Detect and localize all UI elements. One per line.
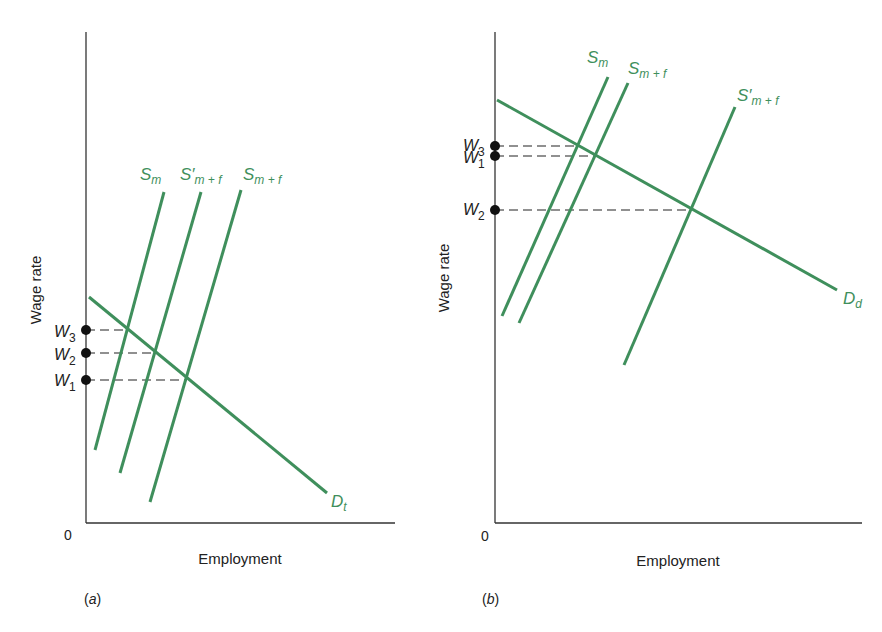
supply-curve-smf-b: [519, 83, 628, 323]
sm-label-a: Sm: [140, 165, 161, 187]
origin-label-b: 0: [481, 528, 489, 544]
dt-label-a: Dt: [331, 492, 347, 514]
y-axis-title-b: Wage rate: [435, 244, 452, 313]
w2-dot-a: [81, 348, 91, 358]
w2-label-a: W2: [54, 346, 76, 368]
w3-label-a: W3: [54, 323, 76, 345]
smf-prime-label-a: S′m + f: [180, 165, 223, 187]
w1-dot-b: [490, 151, 500, 161]
dd-label-b: Dd: [843, 289, 862, 311]
w3-dot-a: [81, 325, 91, 335]
supply-curve-sm-a: [95, 192, 164, 450]
w2-label-b: W2: [463, 201, 485, 223]
smf-label-b: Sm + f: [628, 59, 668, 81]
smf-label-a: Sm + f: [243, 165, 283, 187]
w2-dot-b: [490, 205, 500, 215]
w1-label-a: W1: [54, 372, 76, 394]
demand-curve-dt-a: [89, 297, 327, 493]
y-axis-title-a: Wage rate: [27, 256, 44, 325]
supply-curve-smf-prime-b: [624, 107, 735, 365]
panel-b: W3 W1 W2 Sm Sm + f S′m + f Dd Wage rate …: [435, 32, 862, 607]
figure: W3 W2 W1 Sm S′m + f Sm + f Dt Wage rate …: [0, 0, 882, 632]
x-axis-title-a: Employment: [198, 550, 282, 567]
panel-label-b: (b): [482, 591, 499, 607]
panel-a: W3 W2 W1 Sm S′m + f Sm + f Dt Wage rate …: [27, 32, 395, 607]
supply-curve-smf-a: [150, 190, 241, 502]
origin-label-a: 0: [64, 527, 72, 543]
x-axis-title-b: Employment: [636, 552, 720, 569]
w1-dot-a: [81, 375, 91, 385]
panel-label-a: (a): [84, 591, 101, 607]
w3-dot-b: [490, 141, 500, 151]
smf-prime-label-b: S′m + f: [737, 86, 780, 108]
sm-label-b: Sm: [587, 48, 608, 70]
